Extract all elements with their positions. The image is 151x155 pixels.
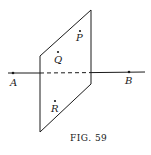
point-p-label: P [75,32,83,43]
point-q-label: Q [54,54,62,65]
point-b-dot [128,71,131,74]
point-a-label: A [9,77,17,88]
figure-canvas: A B P Q R FIG. 59 [0,0,151,155]
point-r-label: R [50,103,59,114]
point-b-label: B [124,75,132,86]
point-q-dot [57,51,59,53]
figure-caption: FIG. 59 [70,133,107,143]
line-ab-right [91,72,145,73]
point-a-dot [12,72,15,75]
plane-parallelogram [40,10,91,132]
point-r-dot [54,100,56,102]
